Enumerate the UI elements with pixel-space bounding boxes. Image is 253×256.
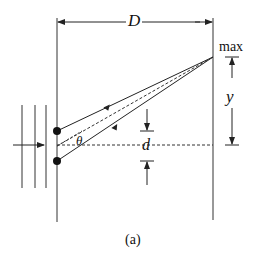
figure-caption: (a)	[125, 233, 141, 247]
ray-lower-arrow	[111, 124, 120, 132]
angle-label: θ	[76, 134, 82, 147]
ray-upper	[57, 57, 213, 131]
slit-upper	[53, 127, 61, 135]
wavefronts	[22, 105, 46, 188]
diagram-canvas	[0, 0, 253, 256]
max-label: max	[219, 40, 243, 54]
distance-label: D	[128, 12, 140, 29]
separation-label: d	[142, 137, 150, 153]
height-label: y	[226, 88, 234, 105]
slit-lower	[53, 157, 61, 165]
